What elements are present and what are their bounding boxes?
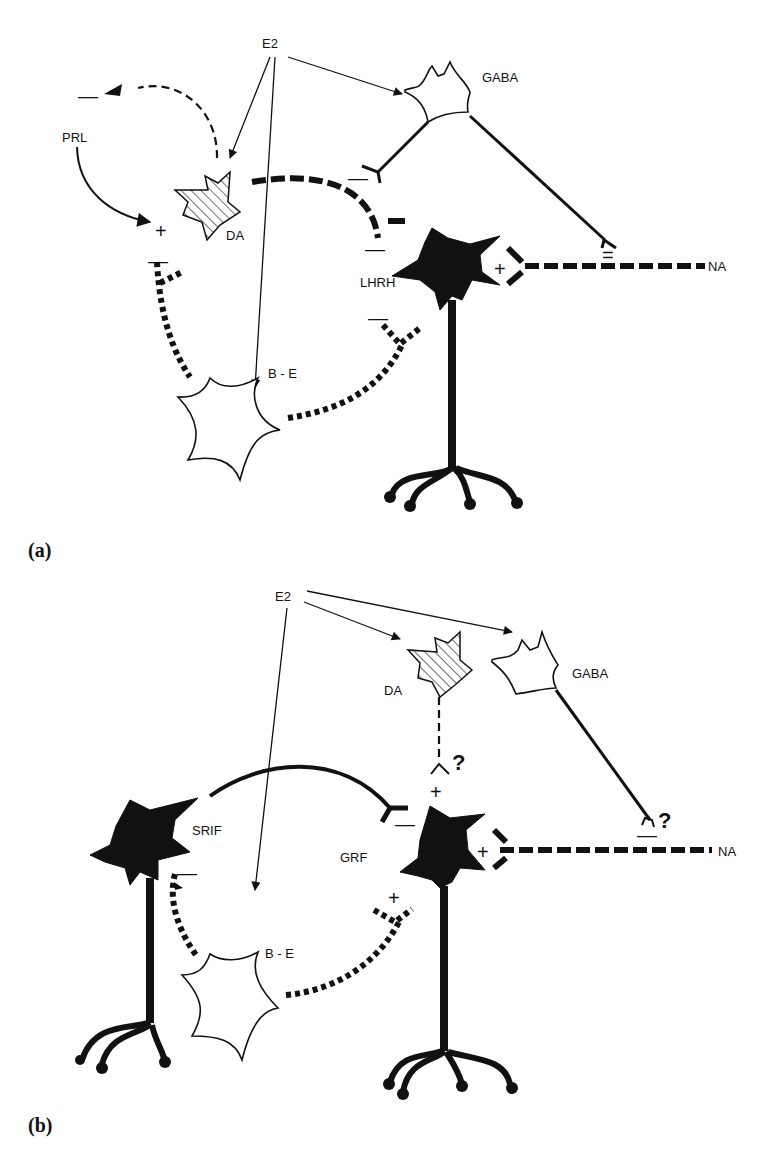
- e2-to-gaba-arrow-b: [307, 591, 512, 632]
- lhrh-axon: [448, 300, 456, 470]
- sign-minus-da-lhrh: —: [365, 238, 385, 260]
- panel-label-a: (a): [28, 539, 51, 562]
- sign-minus-gaba-na-b: —: [637, 824, 657, 846]
- panel-label-b: (b): [28, 1114, 52, 1137]
- panel-a: E2 PRL + — DA — — GABA — =: [28, 36, 726, 562]
- e2-to-da-arrow: [230, 57, 270, 158]
- na-label-a: NA: [708, 259, 726, 274]
- da-label-a: DA: [226, 228, 244, 243]
- panel-b: E2 DA ? + GABA ? — SRIF —: [28, 589, 736, 1137]
- be-neuron-b: [182, 952, 278, 1060]
- lhrh-label: LHRH: [360, 275, 395, 290]
- e2-label-b: E2: [275, 589, 291, 604]
- be-label-a: B - E: [268, 366, 297, 381]
- srif-axon: [146, 878, 154, 1023]
- sign-minus-be-srif: —: [177, 862, 197, 884]
- sign-minus-gaba-da: —: [348, 167, 368, 189]
- grf-terminal: [456, 1080, 468, 1092]
- gaba-label-b: GABA: [572, 666, 608, 681]
- gaba-neuron-b: [492, 632, 558, 694]
- da-to-prl-feedback: [138, 86, 217, 158]
- gaba-to-da-axon: [378, 122, 428, 172]
- grf-axon: [440, 886, 448, 1051]
- sign-minus-srif-grf: —: [395, 813, 415, 835]
- gaba-to-na-axon: [470, 116, 605, 240]
- da-be-terminal: [160, 272, 182, 283]
- na-terminal-top-a: [508, 248, 522, 262]
- prl-to-da-arrow: [77, 147, 150, 222]
- be-grf-terminal: [374, 909, 412, 922]
- da-label-b: DA: [384, 683, 402, 698]
- be-to-lhrh-path: [288, 345, 402, 418]
- sign-plus-na-lhrh: +: [494, 258, 506, 280]
- be-label-b: B - E: [265, 946, 294, 961]
- be-neuron-a: [178, 378, 280, 480]
- lhrh-terminal: [464, 498, 476, 510]
- question-da: ?: [452, 750, 465, 775]
- sign-plus-da-grf: +: [430, 781, 442, 803]
- grf-terminal: [383, 1078, 395, 1090]
- srif-terminal-bottom: [382, 808, 390, 822]
- sign-minus-be-lhrh: —: [368, 307, 388, 329]
- sign-plus-prl: +: [155, 220, 167, 242]
- e2-to-be-arrow-b: [255, 608, 287, 890]
- feedback-arrowhead: [104, 84, 122, 96]
- be-lhrh-terminal: [383, 325, 420, 344]
- lhrh-terminal: [511, 497, 523, 509]
- e2-to-be-arrow: [255, 57, 275, 388]
- sign-eq-gaba-na: =: [602, 244, 614, 266]
- grf-label: GRF: [340, 850, 368, 865]
- neuroendocrine-diagram: E2 PRL + — DA — — GABA — =: [0, 0, 768, 1165]
- na-terminal-bottom-a: [508, 272, 522, 284]
- da-neuron-b: [408, 632, 472, 697]
- gaba-to-na-axon-b: [556, 690, 650, 820]
- be-to-grf-path: [286, 920, 400, 995]
- srif-branch-3: [152, 1025, 164, 1058]
- srif-terminal: [96, 1062, 108, 1074]
- gaba-neuron-a: [405, 62, 470, 122]
- e2-to-da-arrow-b: [304, 602, 400, 639]
- question-gaba: ?: [658, 808, 671, 833]
- srif-label: SRIF: [192, 823, 222, 838]
- e2-to-gaba-arrow: [288, 57, 402, 94]
- grf-terminal: [506, 1082, 518, 1094]
- na-label-b: NA: [718, 844, 736, 859]
- sign-plus-be-grf: +: [388, 887, 400, 909]
- da-grf-terminal: [431, 764, 449, 774]
- gaba-label-a: GABA: [482, 70, 518, 85]
- sign-plus-na-grf: +: [477, 841, 489, 863]
- lhrh-terminal: [384, 491, 396, 503]
- srif-terminal: [159, 1056, 171, 1068]
- na-terminal-top-b: [494, 830, 506, 842]
- e2-label-a: E2: [262, 36, 278, 51]
- lhrh-terminal: [404, 500, 416, 512]
- lhrh-neuron: [392, 228, 500, 310]
- na-terminal-bottom-b: [494, 858, 506, 868]
- srif-to-grf-path: [210, 767, 390, 808]
- sign-minus-da-be: —: [148, 250, 168, 272]
- sign-minus-prl: —: [78, 85, 98, 107]
- srif-terminal: [75, 1055, 85, 1065]
- grf-terminal: [397, 1088, 409, 1100]
- prl-label: PRL: [62, 130, 87, 145]
